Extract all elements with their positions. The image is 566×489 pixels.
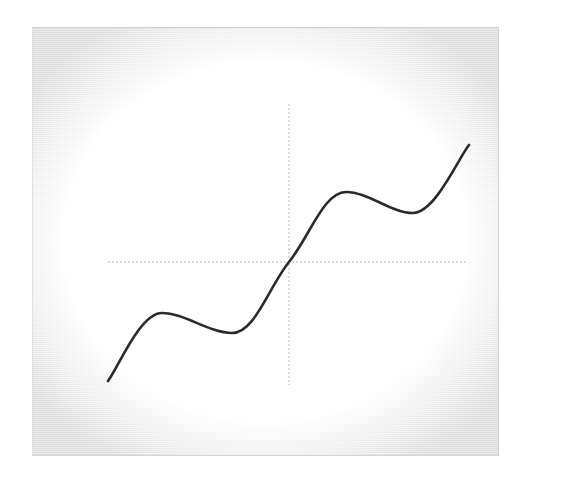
chart-plot-area	[0, 0, 566, 489]
